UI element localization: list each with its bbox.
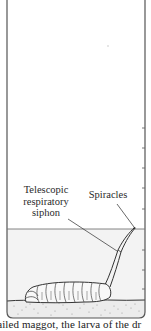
spiracles-label: Spiracles [86,189,130,201]
maggot-body [25,282,110,303]
diagram-figure: Telescopic respiratory siphon Spiracles … [0,0,151,331]
siphon-label-line-3: siphon [17,207,75,219]
spiracles-tip [134,227,136,229]
speck [107,45,108,46]
siphon-label-line-2: respiratory [17,196,75,208]
siphon-label: Telescopic respiratory siphon [17,184,75,219]
container-illustration [0,0,151,331]
siphon-label-line-1: Telescopic [17,184,75,196]
spiracles-leader-line [117,204,134,227]
figure-caption: tailed maggot, the larva of the dr [0,318,141,330]
